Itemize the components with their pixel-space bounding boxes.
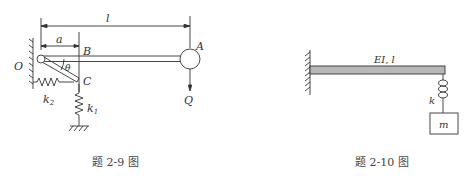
label-o: O (14, 60, 23, 73)
caption-2-10: 题 2-10 图 (355, 156, 409, 169)
label-a-point: A (195, 40, 204, 53)
rod-oa (44, 56, 181, 62)
label-theta: θ (65, 63, 71, 73)
label-a: a (56, 33, 63, 46)
label-k2: k2 (43, 93, 55, 107)
label-c: C (83, 75, 92, 88)
label-k: k (429, 95, 435, 106)
wall-hatch-right (305, 50, 310, 95)
caption-2-9: 题 2-9 图 (92, 156, 139, 169)
wall-hatch-left (29, 38, 33, 89)
label-l: l (106, 12, 110, 25)
label-k1: k1 (87, 102, 98, 116)
ground-hatch (69, 126, 89, 131)
spring-k (439, 74, 448, 113)
pivot-o (37, 55, 45, 63)
cantilever-beam (310, 66, 445, 74)
label-m: m (439, 119, 448, 130)
arm-oc (42, 57, 79, 82)
dimension-l (41, 16, 190, 50)
figure-2-9 (29, 16, 200, 131)
label-b: B (82, 45, 91, 58)
label-q: Q (184, 94, 193, 107)
spring-k1 (75, 84, 83, 126)
force-q-arrow (188, 69, 191, 91)
spring-k2 (33, 78, 74, 86)
label-beam: EI, l (373, 54, 395, 65)
